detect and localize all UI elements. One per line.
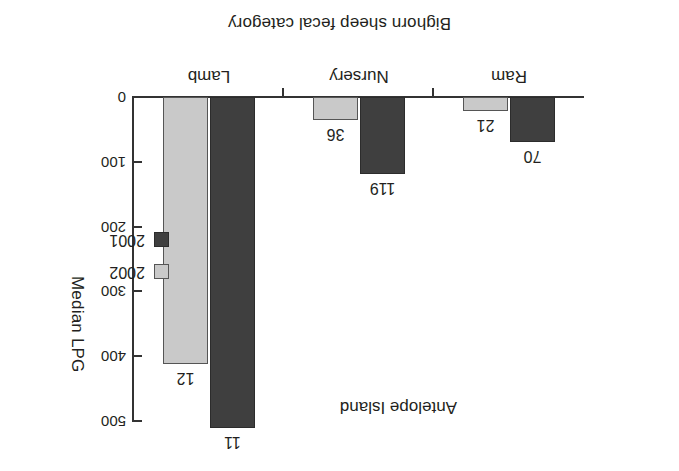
legend-item-2001[interactable]: 2001	[49, 231, 169, 249]
y-axis-tick	[133, 355, 142, 357]
y-axis-tick-label: 500	[101, 414, 126, 429]
bar-nursery-2002	[313, 97, 358, 120]
legend-swatch-2001	[154, 233, 169, 248]
bar-ram-2002	[463, 97, 508, 111]
bar-value-label-nursery-2002: 36	[303, 125, 368, 143]
bar-value-label-lamb-2001: 11	[200, 433, 265, 451]
category-label-ram: Ram	[434, 66, 584, 86]
plot-area: 0100200300400500 7021119361112	[134, 97, 584, 421]
y-axis-tick	[133, 420, 142, 422]
bar-value-label-ram-2001: 70	[500, 147, 565, 165]
y-axis-tick	[133, 290, 142, 292]
legend-label-2001: 2001	[109, 231, 145, 249]
y-axis-title: Median LPG	[67, 276, 87, 373]
x-axis-tick	[432, 88, 434, 97]
y-axis-tick	[133, 96, 142, 98]
y-axis-tick-label: 300	[101, 284, 126, 299]
y-axis-tick-label: 100	[101, 155, 126, 170]
bar-value-label-ram-2002: 21	[453, 116, 518, 134]
bar-value-label-lamb-2002: 12	[153, 369, 218, 387]
category-label-lamb: Lamb	[134, 66, 284, 86]
bar-lamb-2002	[163, 97, 208, 364]
x-axis-tick	[282, 88, 284, 97]
bar-value-label-nursery-2001: 119	[350, 179, 415, 197]
legend-swatch-2002	[154, 265, 169, 280]
x-axis-title: Bighorn sheep fecal category	[0, 13, 679, 33]
y-axis-tick-label: 0	[118, 90, 126, 105]
legend-label-2002: 2002	[109, 263, 145, 281]
y-axis-tick	[133, 161, 142, 163]
legend-item-2002[interactable]: 2002	[49, 263, 169, 281]
bar-chart: Antelope Island 0100200300400500 7021119…	[0, 0, 679, 471]
y-axis-tick-label: 400	[101, 349, 126, 364]
figure-rotator: Antelope Island 0100200300400500 7021119…	[0, 0, 679, 471]
legend: 20022001	[49, 217, 169, 281]
category-label-nursery: Nursery	[284, 66, 434, 86]
